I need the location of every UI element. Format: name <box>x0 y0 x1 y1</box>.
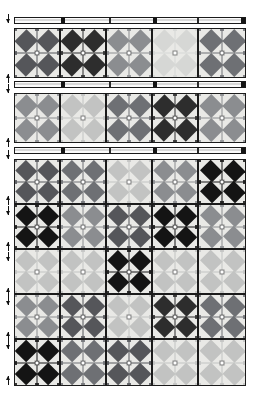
block-quadrant <box>37 205 59 227</box>
quilt-block <box>15 29 59 77</box>
corner-dot <box>15 94 17 96</box>
diamond-shape <box>222 160 245 182</box>
block-quadrant <box>199 29 222 53</box>
diamond-shape <box>175 362 198 385</box>
block-center <box>36 180 39 183</box>
block-quadrant <box>199 295 222 317</box>
block-quadrant <box>83 53 105 77</box>
block-quadrant <box>153 94 175 118</box>
block-quadrant <box>175 29 197 53</box>
block-quadrant <box>129 317 151 339</box>
corner-dot <box>243 295 245 297</box>
rule-tick <box>109 82 111 87</box>
rule-tick <box>241 148 245 153</box>
corner-dot <box>153 383 155 385</box>
pattern-cell <box>199 94 245 142</box>
diamond-shape <box>174 118 197 141</box>
marker-5-icon <box>5 150 12 159</box>
block-center <box>36 270 39 273</box>
corner-dot <box>61 246 63 248</box>
corner-dot <box>243 383 245 385</box>
quilt-block <box>199 205 245 248</box>
corner-dot <box>195 336 197 338</box>
diamond-shape <box>37 362 60 385</box>
corner-dot <box>57 340 59 342</box>
block-quadrant <box>15 250 37 272</box>
corner-dot <box>153 140 155 142</box>
pattern-cell <box>107 250 153 295</box>
diamond-shape <box>36 118 59 141</box>
pattern-cell <box>107 94 153 142</box>
pattern-cell <box>61 295 107 340</box>
diamond-shape <box>61 29 84 52</box>
pattern-cell <box>15 250 61 295</box>
block-quadrant <box>175 317 197 339</box>
diamond-shape <box>153 160 175 182</box>
corner-dot <box>103 201 105 203</box>
pattern-cell <box>61 340 107 385</box>
corner-dot <box>103 246 105 248</box>
pattern-cell <box>153 160 199 205</box>
quilt-block <box>61 340 105 385</box>
corner-dot <box>61 160 63 162</box>
corner-dot <box>103 336 105 338</box>
corner-dot <box>15 160 17 162</box>
pattern-cell <box>153 340 199 385</box>
block-quadrant <box>175 272 197 294</box>
block-quadrant <box>15 317 37 339</box>
block-quadrant <box>83 205 105 227</box>
corner-dot <box>195 383 197 385</box>
corner-dot <box>199 201 201 203</box>
diamond-shape <box>61 181 83 203</box>
block-quadrant <box>129 205 151 227</box>
block-quadrant <box>175 118 197 142</box>
corner-dot <box>61 336 63 338</box>
diamond-shape <box>15 181 37 203</box>
block-quadrant <box>153 340 175 363</box>
diamond-shape <box>107 250 129 272</box>
diamond-shape <box>15 118 38 141</box>
corner-dot <box>15 295 17 297</box>
diamond-shape <box>222 362 245 385</box>
diamond-shape <box>83 362 106 385</box>
diamond-shape <box>199 295 222 317</box>
corner-dot <box>199 140 201 142</box>
diamond-shape <box>107 118 130 141</box>
marker-13-icon <box>5 340 12 349</box>
block-quadrant <box>83 295 105 317</box>
corner-dot <box>103 160 105 162</box>
corner-dot <box>243 246 245 248</box>
diamond-shape <box>107 316 129 338</box>
block-quadrant <box>107 250 129 272</box>
diamond-shape <box>153 226 175 248</box>
corner-dot <box>199 383 201 385</box>
diamond-shape <box>36 29 59 52</box>
corner-dot <box>15 291 17 293</box>
quilt-block <box>153 29 197 77</box>
corner-dot <box>149 295 151 297</box>
block-quadrant <box>222 317 245 339</box>
diamond-shape <box>37 181 59 203</box>
diamond-shape <box>83 181 105 203</box>
diamond-shape <box>83 250 105 272</box>
block-quadrant <box>222 295 245 317</box>
pattern-cell <box>15 94 61 142</box>
diamond-shape <box>129 316 151 338</box>
corner-dot <box>199 291 201 293</box>
corner-dot <box>57 383 59 385</box>
quilt-block <box>61 94 105 142</box>
corner-dot <box>199 250 201 252</box>
diamond-shape <box>107 94 130 117</box>
block-quadrant <box>37 272 59 294</box>
diamond-shape <box>15 226 37 248</box>
marker-6-icon <box>5 196 12 205</box>
block-quadrant <box>15 53 37 77</box>
block-quadrant <box>83 182 105 204</box>
diamond-shape <box>222 118 245 142</box>
diamond-shape <box>175 181 197 203</box>
corner-dot <box>107 340 109 342</box>
block-center <box>36 361 39 364</box>
diamond-shape <box>107 226 129 248</box>
block-quadrant <box>83 272 105 294</box>
diamond-shape <box>153 295 175 317</box>
